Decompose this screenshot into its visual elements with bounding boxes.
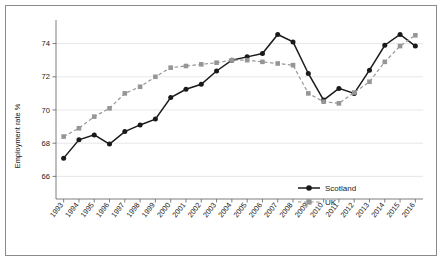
data-point-uk: [168, 65, 173, 70]
data-point-uk: [199, 62, 204, 67]
data-point-uk: [398, 44, 403, 49]
data-point-uk: [123, 91, 128, 96]
chart-container: 6668707274 19931994199519961997199819992…: [5, 5, 437, 256]
x-tick-label: 2000: [155, 201, 172, 220]
y-tick-label: 70: [42, 106, 50, 115]
data-point-uk: [214, 60, 219, 65]
y-tick-label: 72: [42, 72, 50, 81]
legend-label-scotland: Scotland: [325, 184, 356, 193]
employment-rate-line-chart: 6668707274 19931994199519961997199819992…: [6, 6, 436, 255]
data-point-uk: [382, 60, 387, 65]
data-point-uk: [92, 114, 97, 119]
data-point-uk: [413, 33, 418, 38]
data-point-uk: [230, 58, 235, 63]
x-tick-label: 2005: [232, 201, 249, 220]
x-tick-label: 1995: [79, 201, 96, 220]
x-tick-label: 2001: [170, 201, 187, 220]
x-axis-ticks: 1993199419951996199719981999200020012002…: [48, 199, 417, 219]
legend-marker-uk: [306, 199, 311, 204]
data-point-uk: [352, 90, 357, 95]
data-point-scotland: [398, 32, 403, 37]
series-line-uk: [64, 35, 416, 136]
legend-label-uk: UK: [325, 198, 337, 207]
data-point-scotland: [138, 122, 143, 127]
x-tick-label: 2003: [201, 201, 218, 220]
data-point-scotland: [61, 156, 66, 161]
data-point-scotland: [413, 44, 418, 49]
x-tick-label: 2006: [247, 201, 264, 220]
data-point-scotland: [168, 95, 173, 100]
x-tick-label: 2008: [277, 201, 294, 220]
data-point-scotland: [107, 142, 112, 147]
data-point-scotland: [183, 87, 188, 92]
x-tick-label: 2013: [354, 201, 371, 220]
data-point-uk: [321, 99, 326, 104]
data-point-scotland: [199, 82, 204, 87]
x-tick-label: 1999: [140, 201, 157, 220]
data-point-uk: [306, 91, 311, 96]
x-tick-label: 1997: [109, 201, 126, 220]
x-tick-label: 2016: [400, 201, 417, 220]
data-point-uk: [275, 61, 280, 66]
data-point-uk: [61, 134, 66, 139]
data-point-scotland: [76, 137, 81, 142]
x-tick-label: 1996: [94, 201, 111, 220]
y-axis-title: Employment rate %: [13, 103, 22, 168]
y-tick-label: 66: [42, 172, 50, 181]
data-point-uk: [367, 79, 372, 84]
data-point-uk: [245, 58, 250, 63]
data-point-uk: [260, 60, 265, 65]
x-tick-label: 2007: [262, 201, 279, 220]
data-point-scotland: [122, 129, 127, 134]
y-tick-label: 74: [42, 39, 50, 48]
data-point-uk: [77, 126, 82, 131]
series-line-scotland: [64, 34, 416, 158]
data-point-uk: [291, 63, 296, 68]
data-point-uk: [107, 106, 112, 111]
x-tick-label: 2002: [186, 201, 203, 220]
x-tick-label: 1993: [48, 201, 65, 220]
data-point-uk: [184, 64, 189, 69]
x-tick-label: 2015: [384, 201, 401, 220]
data-point-scotland: [291, 39, 296, 44]
data-point-uk: [138, 84, 143, 89]
x-tick-label: 2014: [369, 201, 386, 220]
y-axis-ticks: 6668707274: [42, 39, 56, 181]
data-point-uk: [337, 101, 342, 106]
data-point-scotland: [153, 117, 158, 122]
data-point-uk: [153, 74, 158, 79]
data-point-scotland: [92, 132, 97, 137]
x-tick-label: 1994: [63, 201, 80, 220]
legend-marker-scotland: [306, 185, 312, 191]
data-point-scotland: [260, 51, 265, 56]
data-point-scotland: [275, 32, 280, 37]
x-tick-label: 1998: [124, 201, 141, 220]
data-point-scotland: [214, 68, 219, 73]
data-point-scotland: [306, 71, 311, 76]
y-tick-label: 68: [42, 139, 50, 148]
x-tick-label: 2004: [216, 201, 233, 220]
x-tick-label: 2012: [339, 201, 356, 220]
data-series: [61, 32, 418, 161]
data-point-scotland: [382, 43, 387, 48]
data-point-scotland: [336, 86, 341, 91]
data-point-scotland: [367, 68, 372, 73]
